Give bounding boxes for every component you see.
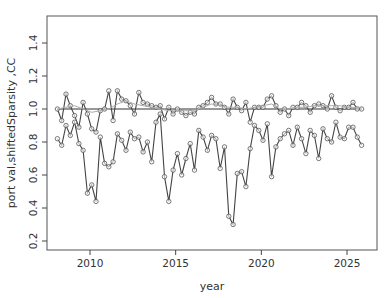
y-tick-label: 0.8	[27, 134, 39, 151]
data-point	[274, 145, 278, 149]
data-point	[120, 138, 124, 142]
data-point	[77, 141, 81, 145]
data-point	[132, 137, 136, 141]
data-point	[269, 94, 273, 98]
data-point	[338, 135, 342, 139]
series-lower-line	[57, 114, 361, 225]
data-point	[128, 130, 132, 134]
data-point	[257, 128, 261, 132]
x-tick-label: 2010	[77, 257, 104, 269]
data-point	[227, 214, 231, 218]
data-point	[167, 199, 171, 203]
data-point	[192, 168, 196, 172]
data-point	[77, 125, 81, 129]
data-point	[329, 140, 333, 144]
data-point	[209, 133, 213, 137]
data-point	[120, 97, 124, 101]
data-point	[90, 127, 94, 131]
data-point	[287, 128, 291, 132]
data-point	[299, 137, 303, 141]
data-point	[209, 95, 213, 99]
data-point	[192, 112, 196, 116]
data-point	[145, 140, 149, 144]
data-point	[329, 94, 333, 98]
data-point	[222, 145, 226, 149]
data-point	[145, 102, 149, 106]
data-point	[355, 135, 359, 139]
y-tick-label: 0.2	[27, 233, 39, 250]
data-point	[85, 112, 89, 116]
data-point	[128, 104, 132, 108]
data-point	[115, 89, 119, 93]
data-point	[205, 100, 209, 104]
data-point	[291, 143, 295, 147]
y-tick-label: 0.6	[27, 166, 39, 183]
y-tick-label: 0.4	[27, 199, 39, 216]
data-point	[359, 143, 363, 147]
data-point	[248, 146, 252, 150]
data-point	[90, 183, 94, 187]
data-point	[72, 113, 76, 117]
data-point	[278, 137, 282, 141]
data-point	[85, 191, 89, 195]
data-point	[111, 118, 115, 122]
data-point	[231, 222, 235, 226]
data-point	[68, 133, 72, 137]
data-point	[132, 112, 136, 116]
data-point	[269, 175, 273, 179]
data-point	[158, 104, 162, 108]
data-point	[317, 156, 321, 160]
data-point	[72, 120, 76, 124]
data-point	[248, 120, 252, 124]
data-point	[154, 120, 158, 124]
data-point	[115, 132, 119, 136]
data-point	[338, 109, 342, 113]
data-point	[188, 141, 192, 145]
y-axis: 0.20.40.60.81.01.21.4	[27, 34, 47, 249]
data-point	[295, 125, 299, 129]
data-point	[141, 100, 145, 104]
data-point	[102, 161, 106, 165]
data-point	[325, 107, 329, 111]
data-point	[141, 150, 145, 154]
x-axis: 2010201520202025	[77, 250, 361, 269]
data-point	[162, 117, 166, 121]
data-point	[342, 137, 346, 141]
data-point	[239, 170, 243, 174]
data-point	[184, 113, 188, 117]
data-point	[167, 105, 171, 109]
data-point	[175, 151, 179, 155]
y-axis-label: port val,shiftedSparsity ,CC	[5, 57, 18, 208]
data-point	[231, 97, 235, 101]
data-point	[334, 120, 338, 124]
data-point	[180, 173, 184, 177]
data-point	[244, 184, 248, 188]
data-point	[265, 97, 269, 101]
data-point	[94, 130, 98, 134]
x-tick-label: 2015	[162, 257, 189, 269]
data-point	[171, 112, 175, 116]
data-point	[184, 156, 188, 160]
data-point	[94, 199, 98, 203]
data-point	[162, 175, 166, 179]
data-point	[158, 112, 162, 116]
data-point	[64, 123, 68, 127]
x-tick-label: 2020	[248, 257, 275, 269]
data-point	[107, 89, 111, 93]
data-point	[227, 112, 231, 116]
x-tick-label: 2025	[334, 257, 361, 269]
data-point	[218, 166, 222, 170]
data-point	[197, 128, 201, 132]
y-tick-label: 1.2	[27, 68, 39, 85]
data-point	[235, 171, 239, 175]
data-point	[150, 160, 154, 164]
data-point	[325, 137, 329, 141]
data-point	[244, 100, 248, 104]
line-chart: 0.20.40.60.81.01.21.4 2010201520202025 y…	[0, 0, 389, 298]
data-point	[201, 135, 205, 139]
data-point	[81, 148, 85, 152]
data-point	[287, 113, 291, 117]
data-point	[60, 143, 64, 147]
data-point	[347, 125, 351, 129]
data-point	[214, 137, 218, 141]
